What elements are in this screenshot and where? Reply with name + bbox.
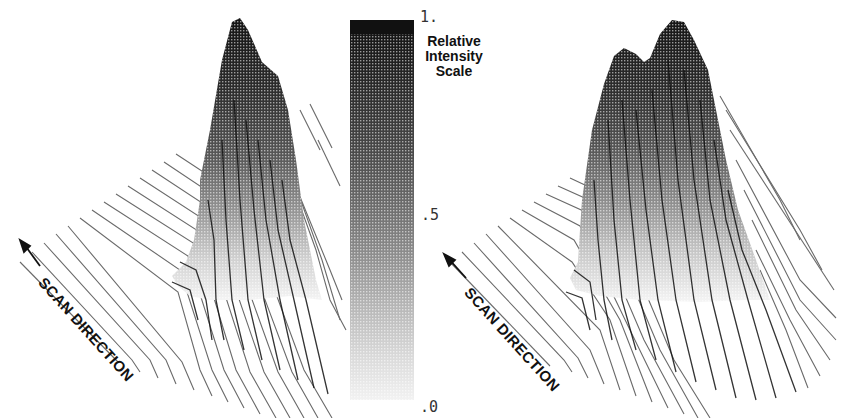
- colorbar-title: Relative Intensity Scale: [414, 34, 494, 79]
- colorbar-tick-mid: .5: [421, 206, 439, 224]
- left-peak-surface: [172, 18, 328, 394]
- colorbar-tick-min: .0: [420, 398, 438, 416]
- colorbar-tick-max: 1.: [420, 8, 438, 26]
- colorbar-title-line-2: Intensity: [414, 49, 494, 64]
- intensity-colorbar: [350, 20, 414, 400]
- colorbar-title-line-3: Scale: [414, 64, 494, 79]
- left-scan-arrow: [20, 240, 40, 266]
- colorbar-title-line-1: Relative: [414, 34, 494, 49]
- right-scan-arrow: [444, 254, 466, 278]
- right-peak-surface: [566, 20, 796, 400]
